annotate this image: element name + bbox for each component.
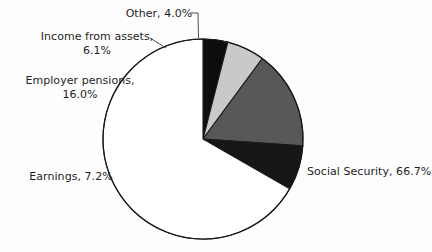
slice-label-other: Other, 4.0% xyxy=(104,7,214,21)
slice-label-earnings-text: Earnings, 7.2% xyxy=(29,170,112,183)
slice-label-other-text: Other, 4.0% xyxy=(126,7,193,20)
slice-label-social-security-text: Social Security, 66.7% xyxy=(307,165,431,178)
slice-label-income-from-assets: Income from assets,6.1% xyxy=(22,30,172,57)
slice-label-earnings: Earnings, 7.2% xyxy=(16,170,126,184)
slice-label-employer-pensions-line2: 16.0% xyxy=(62,88,97,101)
slice-label-income-from-assets-line1: Income from assets, xyxy=(41,30,154,43)
pie-slices xyxy=(103,39,303,239)
slice-label-social-security: Social Security, 66.7% xyxy=(307,165,432,179)
slice-label-employer-pensions: Employer pensions,16.0% xyxy=(0,74,160,101)
slice-label-income-from-assets-line2: 6.1% xyxy=(83,44,111,57)
slice-label-employer-pensions-line1: Employer pensions, xyxy=(25,74,134,87)
